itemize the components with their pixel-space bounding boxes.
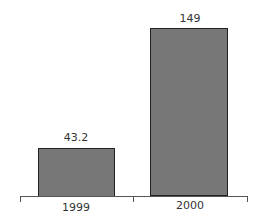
x-axis-tick xyxy=(247,196,248,202)
value-label-2000: 149 xyxy=(150,12,230,25)
category-label-2000: 2000 xyxy=(150,199,230,212)
category-label-1999: 1999 xyxy=(36,201,116,214)
x-axis-tick xyxy=(20,196,21,202)
x-axis xyxy=(20,196,248,197)
value-label-1999: 43.2 xyxy=(36,131,116,144)
bar-2000 xyxy=(150,28,228,196)
x-axis-tick xyxy=(133,196,134,202)
bar-1999 xyxy=(38,148,115,197)
